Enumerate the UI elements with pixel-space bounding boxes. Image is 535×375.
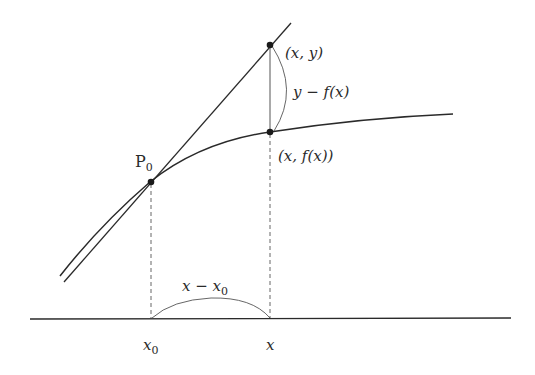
tangent-diagram: P0 (x, y) y − f(x) (x, f(x)) x − x0 x0 x bbox=[0, 0, 535, 375]
axis-label-x: x bbox=[266, 336, 275, 354]
label-point-x-fx: (x, f(x)) bbox=[278, 147, 334, 165]
point-x-fx bbox=[267, 129, 274, 136]
axis-label-x0: x0 bbox=[143, 336, 158, 357]
label-vertical-difference: y − f(x) bbox=[292, 83, 349, 101]
point-p0 bbox=[148, 179, 155, 186]
label-p0: P0 bbox=[135, 152, 153, 174]
point-x-y bbox=[267, 42, 274, 49]
label-horizontal-difference: x − x0 bbox=[182, 277, 228, 298]
label-point-x-y: (x, y) bbox=[285, 44, 323, 62]
x-axis-line bbox=[30, 318, 511, 319]
horizontal-difference-arc bbox=[152, 298, 270, 318]
tangent-line bbox=[64, 23, 291, 282]
function-curve bbox=[60, 114, 453, 276]
